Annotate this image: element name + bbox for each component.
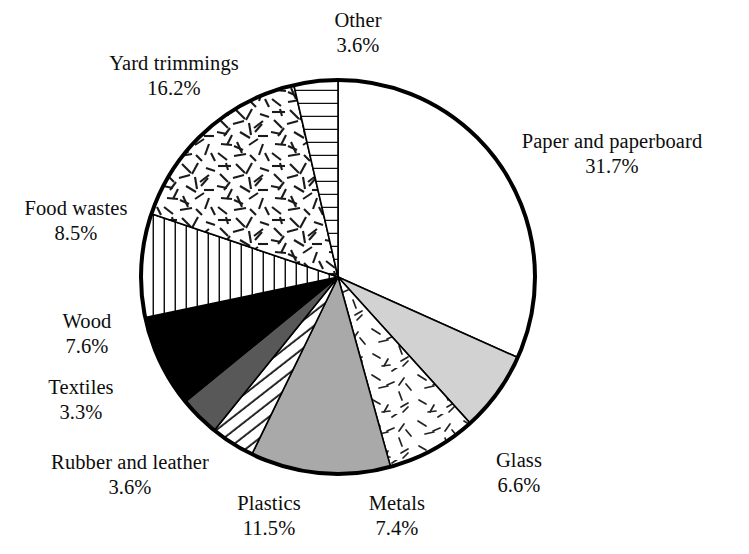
slice-label-value: 3.6% <box>158 33 558 58</box>
slice-label-rubber-and-leather: Rubber and leather 3.6% <box>0 450 330 499</box>
slice-label-name: Glass <box>319 448 719 473</box>
slice-label-name: Wood <box>0 309 287 334</box>
slice-label-name: Paper and paperboard <box>412 129 749 154</box>
slice-label-value: 3.3% <box>0 400 281 425</box>
slice-label-other: Other 3.6% <box>158 8 558 57</box>
slice-label-food-wastes: Food wastes 8.5% <box>0 196 276 245</box>
slice-label-yard-trimmings: Yard trimmings 16.2% <box>0 51 374 100</box>
slice-label-glass: Glass 6.6% <box>319 448 719 497</box>
slice-label-value: 3.6% <box>0 475 330 500</box>
slice-label-value: 31.7% <box>412 154 749 179</box>
slice-label-value: 7.6% <box>0 334 287 359</box>
slice-label-name: Rubber and leather <box>0 450 330 475</box>
slice-label-textiles: Textiles 3.3% <box>0 375 281 424</box>
slice-label-name: Other <box>158 8 558 33</box>
slice-label-name: Textiles <box>0 375 281 400</box>
slice-label-paper-and-paperboard: Paper and paperboard 31.7% <box>412 129 749 178</box>
slice-label-name: Food wastes <box>0 196 276 221</box>
pie-chart: Paper and paperboard 31.7% Glass 6.6% Me… <box>0 0 749 554</box>
slice-label-value: 16.2% <box>0 76 374 101</box>
slice-label-value: 8.5% <box>0 221 276 246</box>
slice-label-value: 11.5% <box>69 516 469 541</box>
slice-label-wood: Wood 7.6% <box>0 309 287 358</box>
